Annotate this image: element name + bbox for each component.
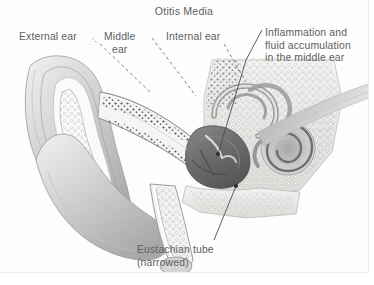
leader-middle-ear-right <box>152 38 196 96</box>
otitis-media-figure: Otitis Media External ear Middle ear Int… <box>0 0 374 285</box>
label-eustachian-tube: Eustachian tube (narrowed) <box>137 244 214 269</box>
label-middle-ear: Middle ear <box>104 31 136 56</box>
figure-title: Otitis Media <box>0 5 368 17</box>
leader-dot-eustachian <box>234 184 238 188</box>
leader-dot-inflammation <box>216 152 220 156</box>
label-inflammation: Inflammation and fluid accumulation in t… <box>265 27 351 65</box>
label-internal-ear: Internal ear <box>166 31 220 44</box>
label-external-ear: External ear <box>19 31 77 44</box>
leader-external-ear <box>92 38 98 44</box>
palate-bone-structure <box>182 186 300 218</box>
